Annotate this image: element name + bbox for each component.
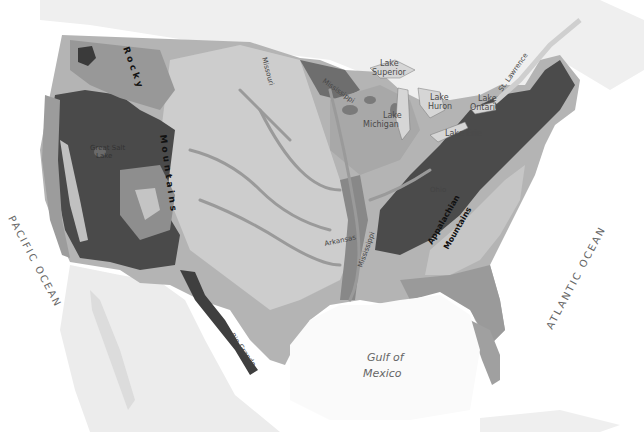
lake-michigan-label-2: Michigan (363, 120, 399, 129)
great-salt-lake-label-2: Lake (96, 152, 112, 160)
gulf-label-line1: Gulf of (367, 351, 406, 364)
great-salt-lake-label-1: Great Salt (90, 144, 125, 152)
upland-patch (342, 105, 358, 115)
lake-superior-label-2: Superior (372, 68, 407, 77)
lake-superior-label-1: Lake (380, 59, 399, 68)
lake-huron-label-1: Lake (430, 93, 449, 102)
ohio-river-label: Ohio (430, 186, 446, 194)
lake-erie-label: Lake Erie (445, 129, 482, 138)
lake-ontario-label-1: Lake (478, 94, 497, 103)
lake-michigan-label-1: Lake (383, 111, 402, 120)
us-physiographic-map: PACIFIC OCEAN ATLANTIC OCEAN Gulf of Mex… (0, 0, 644, 432)
lake-ontario-label-2: Ontario (470, 103, 500, 112)
lake-huron-label-2: Huron (428, 102, 452, 111)
upland-patch (364, 96, 376, 104)
gulf-label-line2: Mexico (363, 367, 402, 380)
